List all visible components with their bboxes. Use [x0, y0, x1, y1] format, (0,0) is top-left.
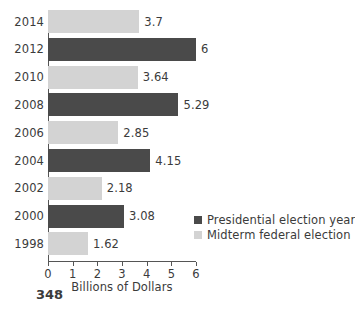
legend-swatch-presidential-icon	[194, 216, 202, 224]
bar-value-label-2012: 6	[201, 42, 208, 56]
bar-1998	[48, 232, 88, 255]
legend-swatch-midterm-icon	[194, 231, 202, 239]
bar-2014	[48, 10, 139, 33]
x-tick-mark-1	[73, 262, 74, 266]
bar-value-label-2000: 3.08	[129, 209, 155, 223]
bar-value-label-2010: 3.64	[143, 70, 169, 84]
category-label-2008: 2008	[0, 98, 44, 112]
legend-label: Presidential election year	[207, 213, 355, 227]
x-tick-label-2: 2	[94, 267, 101, 281]
bar-row: 3.7	[48, 10, 196, 33]
legend-entry-midterm: Midterm federal election	[194, 227, 355, 242]
category-label-1998: 1998	[0, 237, 44, 251]
bar-row: 5.29	[48, 93, 196, 116]
bar-2000	[48, 205, 124, 228]
x-tick-label-1: 1	[69, 267, 76, 281]
x-tick-label-6: 6	[192, 267, 199, 281]
bar-value-label-1998: 1.62	[93, 237, 119, 251]
bar-2004	[48, 149, 150, 172]
bar-value-label-2008: 5.29	[183, 98, 209, 112]
legend-label: Midterm federal election	[207, 228, 351, 242]
x-tick-label-0: 0	[44, 267, 51, 281]
category-label-2010: 2010	[0, 70, 44, 84]
x-tick-mark-6	[196, 262, 197, 266]
bar-row: 3.64	[48, 66, 196, 89]
bar-value-label-2014: 3.7	[144, 15, 163, 29]
bar-2010	[48, 66, 138, 89]
bar-value-label-2006: 2.85	[123, 126, 149, 140]
x-axis-title: Billions of Dollars	[48, 280, 196, 294]
x-tick-mark-0	[48, 262, 49, 266]
category-label-2002: 2002	[0, 181, 44, 195]
bar-2006	[48, 121, 118, 144]
x-tick-mark-5	[171, 262, 172, 266]
bar-row: 4.15	[48, 149, 196, 172]
legend-entry-presidential: Presidential election year	[194, 212, 355, 227]
category-label-2006: 2006	[0, 126, 44, 140]
x-tick-label-5: 5	[168, 267, 175, 281]
x-tick-mark-2	[97, 262, 98, 266]
bar-row: 1.62	[48, 232, 196, 255]
chart-legend: Presidential election yearMidterm federa…	[194, 212, 355, 242]
bar-2008	[48, 93, 178, 116]
x-tick-label-4: 4	[143, 267, 150, 281]
category-label-2012: 2012	[0, 42, 44, 56]
bar-row: 2.85	[48, 121, 196, 144]
bar-2012	[48, 38, 196, 61]
x-tick-mark-4	[147, 262, 148, 266]
y-axis-category-labels: 201420122010200820062004200220001998	[0, 10, 44, 261]
category-label-2004: 2004	[0, 154, 44, 168]
bar-row: 2.18	[48, 177, 196, 200]
x-tick-label-3: 3	[118, 267, 125, 281]
x-axis-ticks: 0123456	[48, 262, 196, 280]
bar-value-label-2002: 2.18	[107, 181, 133, 195]
x-tick-mark-3	[122, 262, 123, 266]
bar-row: 6	[48, 38, 196, 61]
category-label-2000: 2000	[0, 209, 44, 223]
plot-area: 3.763.645.292.854.152.183.081.62	[48, 10, 196, 261]
bar-row: 3.08	[48, 205, 196, 228]
bar-2002	[48, 177, 102, 200]
page-number: 348	[36, 287, 63, 302]
category-label-2014: 2014	[0, 15, 44, 29]
bar-value-label-2004: 4.15	[155, 154, 181, 168]
